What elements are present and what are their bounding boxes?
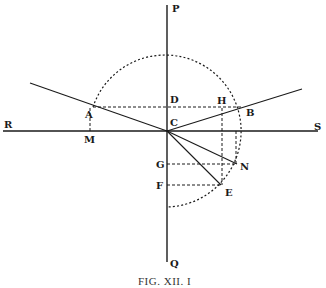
ray-CN bbox=[167, 131, 237, 164]
label-M: M bbox=[84, 134, 95, 145]
refraction-diagram: P Q R S C A B D H M G N F E FIG. XII. I bbox=[0, 0, 326, 288]
ray-CE bbox=[167, 131, 221, 185]
label-H: H bbox=[217, 95, 226, 106]
label-E: E bbox=[225, 187, 233, 198]
figure-caption: FIG. XII. I bbox=[138, 275, 191, 287]
label-A: A bbox=[84, 109, 93, 120]
label-R: R bbox=[4, 119, 13, 130]
label-Q: Q bbox=[170, 258, 179, 269]
label-G: G bbox=[156, 159, 165, 170]
label-S: S bbox=[314, 121, 321, 132]
label-N: N bbox=[240, 161, 249, 172]
label-B: B bbox=[246, 107, 254, 118]
refracted-ray-CB bbox=[167, 89, 302, 131]
label-C: C bbox=[170, 117, 178, 128]
label-F: F bbox=[156, 180, 163, 191]
label-D: D bbox=[170, 94, 179, 105]
label-P: P bbox=[172, 3, 180, 14]
